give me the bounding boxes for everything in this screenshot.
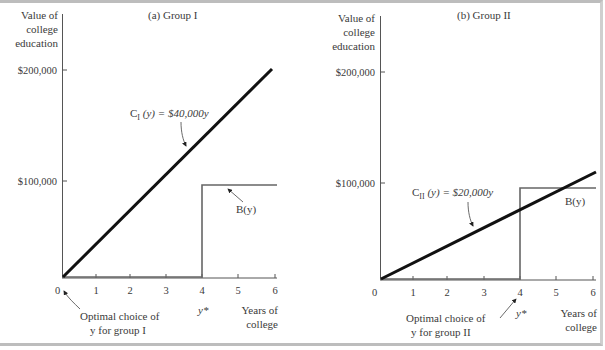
x-tick-label-1: 1 (93, 285, 98, 296)
x-axis-label-line1: Years of (242, 304, 279, 316)
optimal-choice-line2: y for group I (90, 324, 146, 336)
y-tick-label-200k: $200,000 (336, 67, 375, 78)
cost-line (63, 69, 272, 277)
x-axis-label-line1: Years of (561, 307, 598, 319)
x-tick-label-5: 5 (235, 285, 240, 296)
x-axis-label-line2: college (246, 318, 278, 330)
benefit-label: B(y) (565, 195, 586, 208)
x-tick-label-2: 2 (444, 287, 449, 298)
optimal-choice-line1: Optimal choice of (406, 312, 486, 324)
y-tick-label-200k: $200,000 (18, 65, 57, 76)
x-tick-label-4: 4 (199, 285, 205, 296)
x-tick-label-4: 4 (517, 287, 523, 298)
figure-canvas: (a) Group I Value of college education $… (0, 0, 605, 350)
x-axis-label-line2: college (565, 321, 597, 333)
x-tick-label-3: 3 (163, 285, 168, 296)
x-tick-label-2: 2 (127, 285, 132, 296)
panel-title: (b) Group II (457, 9, 511, 22)
y-axis-label-line3: education (332, 40, 375, 52)
y-axis-label-line3: education (15, 37, 58, 49)
panel-title: (a) Group I (148, 9, 198, 22)
x-tick-label-1: 1 (410, 287, 415, 298)
cost-label-arrow-icon (468, 202, 473, 226)
optimal-choice-arrow-icon (64, 291, 80, 309)
benefit-label: B(y) (236, 203, 257, 216)
panel-group-2: (b) Group II Value of college education … (332, 9, 597, 338)
y-axis-label-line1: Value of (21, 9, 58, 21)
x-tick-label-6: 6 (272, 285, 277, 296)
benefit-curve (62, 185, 277, 277)
x-tick-label-0: 0 (55, 285, 60, 296)
optimal-choice-line1: Optimal choice of (80, 310, 160, 322)
cost-line-label: CII (y) = $20,000y (412, 186, 493, 201)
y-axis-label-line1: Value of (338, 12, 375, 24)
y-star-label: y* (515, 307, 527, 319)
panel-group-1: (a) Group I Value of college education $… (15, 9, 278, 336)
optimal-choice-line2: y for group II (411, 326, 471, 338)
x-tick-label-3: 3 (481, 287, 486, 298)
x-tick-label-0: 0 (372, 287, 377, 298)
benefit-curve (380, 188, 596, 279)
y-axis-label-line2: college (343, 26, 375, 38)
x-tick-label-5: 5 (553, 287, 558, 298)
cost-label-arrow-icon (181, 122, 186, 146)
benefit-label-arrow-icon (228, 189, 243, 202)
y-star-label: y* (197, 304, 209, 316)
y-tick-label-100k: $100,000 (336, 178, 375, 189)
cost-line-label: CI (y) = $40,000y (130, 107, 209, 122)
optimal-choice-arrow-icon (500, 299, 516, 318)
y-axis-label-line2: college (26, 23, 58, 35)
x-tick-label-6: 6 (590, 287, 595, 298)
y-tick-label-100k: $100,000 (18, 176, 57, 187)
